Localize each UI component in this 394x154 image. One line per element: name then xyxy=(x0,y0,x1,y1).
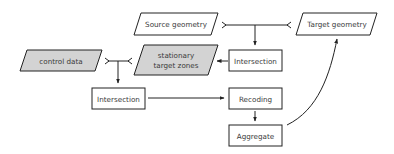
node-target-geometry[interactable]: Target geometry xyxy=(296,13,377,35)
edge-aggregate-to-target xyxy=(287,39,337,125)
target-geometry-label: Target geometry xyxy=(306,20,367,29)
node-aggregate[interactable]: Aggregate xyxy=(229,125,282,146)
intersection-bottom-label: Intersection xyxy=(97,95,140,104)
source-geometry-label: Source geometry xyxy=(145,20,208,29)
intersection-top-label: Intersection xyxy=(234,57,277,66)
stationary-label-line1: stationary xyxy=(158,51,195,60)
control-data-label: control data xyxy=(39,57,82,66)
node-intersection-top[interactable]: Intersection xyxy=(229,50,282,71)
aggregate-label: Aggregate xyxy=(237,132,275,141)
join-connector-left xyxy=(105,58,132,83)
node-stationary-target-zones[interactable]: stationary target zones xyxy=(134,45,218,75)
node-control-data[interactable]: control data xyxy=(20,50,102,71)
node-recoding[interactable]: Recoding xyxy=(229,88,282,109)
node-intersection-bottom[interactable]: Intersection xyxy=(92,88,145,109)
join-connector-top xyxy=(222,22,291,45)
recoding-label: Recoding xyxy=(239,95,272,104)
stationary-label-line2: target zones xyxy=(153,61,198,70)
node-source-geometry[interactable]: Source geometry xyxy=(134,13,218,35)
flowchart-canvas: Source geometry Target geometry Intersec… xyxy=(0,0,394,154)
